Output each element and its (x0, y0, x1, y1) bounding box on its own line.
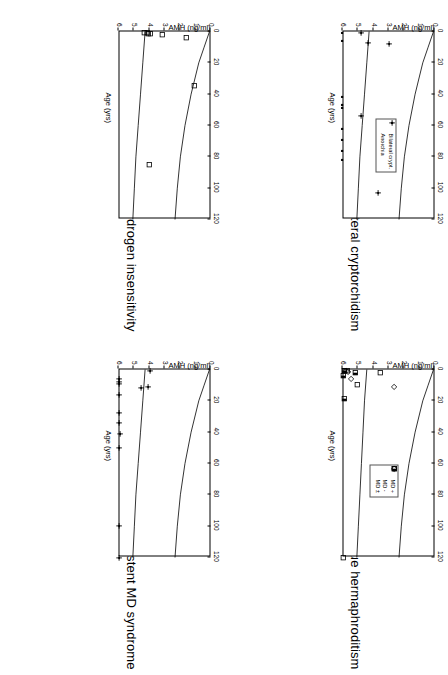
data-point (338, 147, 345, 154)
data-point (158, 31, 165, 38)
x-tick (132, 27, 133, 30)
y-axis-title: AMH (ng/ml) (168, 360, 210, 369)
data-point (115, 554, 122, 561)
x-tick (356, 365, 357, 368)
x-tick-label: 1 (416, 16, 423, 26)
reference-curves (117, 31, 209, 219)
y-tick (207, 399, 210, 400)
x-tick (372, 365, 373, 368)
x-tick-label: 1 (192, 16, 199, 26)
data-point (115, 522, 122, 529)
y-tick (207, 187, 210, 188)
x-tick-label: 0 (207, 16, 214, 26)
data-point (144, 30, 151, 37)
x-tick-label: 5 (354, 16, 361, 26)
panel-persistent-md-syndrome: Persistent MD syndrome AMH (ng/ml) Age (… (0, 338, 224, 675)
x-tick-label: 5 (130, 354, 137, 364)
x-tick (433, 365, 434, 368)
x-tick-label: 3 (161, 16, 168, 26)
y-tick-label: 40 (212, 84, 219, 102)
data-point (340, 395, 347, 402)
figure-sheet: Androgen insensitivity AMH (ng/ml) Age (… (0, 0, 448, 675)
x-tick (387, 365, 388, 368)
y-tick (431, 218, 434, 219)
x-tick (194, 27, 195, 30)
x-tick-label: 6 (339, 16, 346, 26)
x-tick-label: 0 (431, 16, 438, 26)
x-tick-label: 1 (192, 354, 199, 364)
y-tick-label: 40 (212, 422, 219, 440)
data-point (338, 156, 345, 163)
data-point (182, 34, 189, 41)
x-tick (132, 365, 133, 368)
y-tick-label: 80 (436, 146, 443, 164)
x-axis-title: Age (yrs) (327, 92, 336, 122)
x-tick-label: 6 (339, 354, 346, 364)
data-point (385, 40, 392, 47)
y-tick-label: 100 (436, 178, 443, 196)
reference-curves (341, 369, 433, 557)
y-tick-label: 120 (436, 547, 443, 565)
legend-label: MD + (387, 479, 395, 493)
panel-anorchia-bilateral-cryptorchidism: Anorchia and bilateral cryptorchidism AM… (224, 0, 448, 337)
y-tick (207, 93, 210, 94)
x-tick (178, 365, 179, 368)
legend-item: MD - (380, 468, 388, 493)
y-tick (431, 493, 434, 494)
y-tick-label: 40 (436, 422, 443, 440)
y-tick (431, 525, 434, 526)
x-tick (194, 365, 195, 368)
x-tick-label: 4 (370, 16, 377, 26)
x-tick-label: 4 (146, 354, 153, 364)
data-point (364, 39, 371, 46)
y-tick (207, 462, 210, 463)
y-tick-label: 20 (436, 390, 443, 408)
data-point (145, 161, 152, 168)
x-tick (117, 365, 118, 368)
x-tick-label: 4 (370, 354, 377, 364)
x-tick (356, 27, 357, 30)
x-tick-label: 0 (207, 354, 214, 364)
y-tick (207, 155, 210, 156)
x-tick (209, 365, 210, 368)
data-point (115, 419, 122, 426)
plot-area (342, 368, 434, 556)
x-tick-label: 5 (354, 354, 361, 364)
y-tick-label: 100 (436, 516, 443, 534)
data-point (338, 125, 345, 132)
x-tick-label: 6 (115, 354, 122, 364)
y-tick (431, 399, 434, 400)
y-tick (431, 187, 434, 188)
y-tick (431, 61, 434, 62)
legend: MD +MD -MD ± (369, 464, 398, 497)
legend-item: Anorchia (378, 122, 386, 168)
data-point (115, 444, 122, 451)
x-tick-label: 5 (130, 16, 137, 26)
plot-canvas (341, 369, 433, 557)
data-point (190, 82, 197, 89)
y-tick-label: 60 (212, 453, 219, 471)
y-axis-title: AMH (ng/ml) (168, 22, 210, 31)
y-tick (207, 431, 210, 432)
legend-item: MD ± (372, 468, 380, 493)
panel-true-hermaphroditism: True hermaphroditism AMH (ng/ml) Age (yr… (224, 338, 448, 675)
y-tick-label: 60 (212, 115, 219, 133)
legend-label: Bilateral crypt. (385, 133, 393, 168)
x-tick-label: 3 (385, 354, 392, 364)
panel-androgen-insensitivity: Androgen insensitivity AMH (ng/ml) Age (… (0, 0, 224, 337)
data-point (357, 112, 364, 119)
y-tick (207, 124, 210, 125)
x-tick (433, 27, 434, 30)
x-tick-label: 2 (400, 16, 407, 26)
legend-label: MD - (380, 479, 388, 491)
y-tick (431, 431, 434, 432)
data-point (338, 136, 345, 143)
x-axis-title: Age (yrs) (103, 430, 112, 460)
x-tick (418, 365, 419, 368)
y-tick-label: 20 (212, 52, 219, 70)
panel-title: True hermaphroditism (347, 540, 362, 669)
y-tick-label: 120 (212, 209, 219, 227)
x-tick-label: 2 (176, 16, 183, 26)
data-point (374, 189, 381, 196)
x-tick-label: 2 (176, 354, 183, 364)
